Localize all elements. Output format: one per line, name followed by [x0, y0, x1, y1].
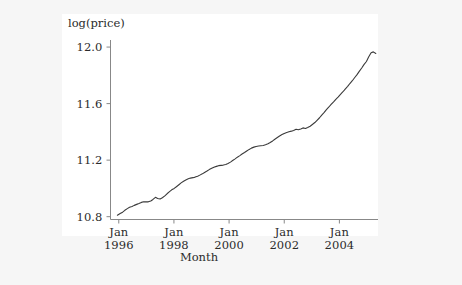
x-tick-label: Jan1998	[144, 226, 204, 252]
y-tick-label: 11.2	[47, 153, 103, 167]
y-tick-marks	[107, 47, 111, 217]
y-tick-label: 12.0	[47, 40, 103, 54]
x-tick-label: Jan1996	[89, 226, 149, 252]
x-tick-label: Jan2000	[199, 226, 259, 252]
y-tick-label: 10.8	[47, 210, 103, 224]
x-tick-label: Jan2002	[254, 226, 314, 252]
x-tick-month: Jan	[219, 225, 238, 239]
x-tick-marks	[119, 220, 340, 224]
figure-container: log(price) 10.811.211.612.0 Jan1996Jan19…	[0, 0, 462, 285]
y-tick-label: 11.6	[47, 97, 103, 111]
x-tick-month: Jan	[109, 225, 128, 239]
axis-lines	[111, 40, 379, 220]
x-tick-month: Jan	[275, 225, 294, 239]
x-tick-label: Jan2004	[309, 226, 369, 252]
x-tick-month: Jan	[330, 225, 349, 239]
x-tick-month: Jan	[164, 225, 183, 239]
data-series-line	[117, 52, 375, 215]
y-axis-title: log(price)	[68, 16, 125, 30]
x-axis-title: Month	[0, 250, 462, 264]
x-axis-title-text: Month	[180, 250, 218, 264]
